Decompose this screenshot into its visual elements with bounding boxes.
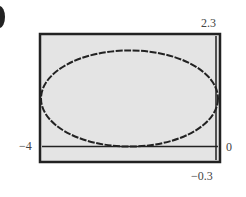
x-max-label: 0 <box>226 141 232 153</box>
y-min-label: −0.3 <box>191 170 213 182</box>
y-max-label: 2.3 <box>201 17 216 29</box>
plot-frame <box>40 34 220 162</box>
x-min-label: −4 <box>19 140 32 152</box>
